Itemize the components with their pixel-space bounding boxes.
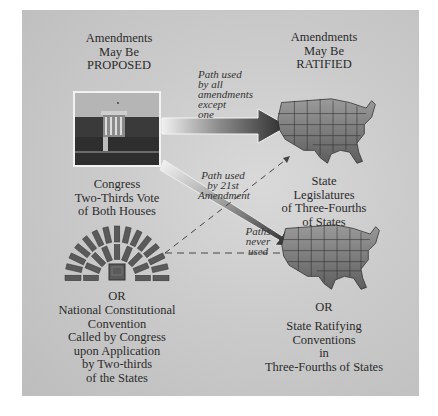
assembly-seating-icon [65,226,169,281]
or-text: OR [264,301,384,315]
us-map-conventions [282,225,380,289]
convention-method-label: National Constitutional Convention Calle… [47,304,187,385]
conventions-method-label: State Ratifying Conventions in Three-Fou… [254,320,394,374]
label-line: Legislatures [264,189,384,203]
seat [114,245,120,260]
label-line: of Three-Fourths [264,202,384,216]
seat [103,227,112,244]
label-line: Convention [47,318,187,332]
path-label-never-used: Paths never used [243,226,273,256]
seat [122,246,133,262]
ratification-or-label: OR [264,301,384,315]
proposal-or-label: OR [57,290,177,304]
path-label-all-but-one: Path used by all amendments except one [198,69,253,119]
seat [133,263,149,274]
label-line: by Two-thirds [47,358,187,372]
label-line: one [198,109,253,119]
legislatures-method-label: State Legislatures of Three-Fourths of S… [264,175,384,229]
or-text: OR [57,290,177,304]
us-map-legislatures [278,99,376,163]
label-line: National Constitutional [47,304,187,318]
seat [136,275,151,281]
seat [128,252,142,266]
seat [85,263,101,274]
seat [84,275,99,281]
label-line: Three-Fourths of States [254,361,394,375]
label-line: upon Application [47,345,187,359]
seat [66,264,83,273]
label-line: Conventions [254,334,394,348]
label-line: in [254,347,394,361]
label-line: Amendment [198,190,248,200]
seat [91,252,105,266]
label-line: of the States [47,372,187,386]
seat [102,246,113,262]
seat [153,275,169,281]
path-label-21st-amendment: Path used by 21st Amendment [198,170,248,200]
seat [122,227,131,244]
seat [151,264,168,273]
seat [114,226,120,242]
seat [65,275,81,281]
label-line: used [243,246,273,256]
label-line: State [264,175,384,189]
podium [109,264,125,280]
label-line: State Ratifying [254,320,394,334]
label-line: Called by Congress [47,331,187,345]
label-line: of States [264,216,384,230]
